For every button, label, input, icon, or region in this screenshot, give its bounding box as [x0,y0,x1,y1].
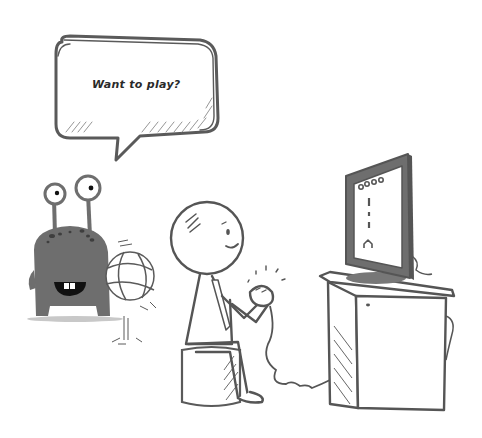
controller-cable [266,306,330,388]
monster-eye-left [45,184,65,204]
basketball [106,240,156,344]
speech-bubble [56,36,218,160]
monster-shadow [27,316,123,322]
illustration-scene [0,0,482,438]
monster [29,176,110,316]
speech-bubble-text: Want to play? [92,78,181,91]
monster-eye-right [76,176,100,200]
tv-cabinet [320,272,454,410]
television [346,154,432,284]
boy-head [171,202,243,274]
